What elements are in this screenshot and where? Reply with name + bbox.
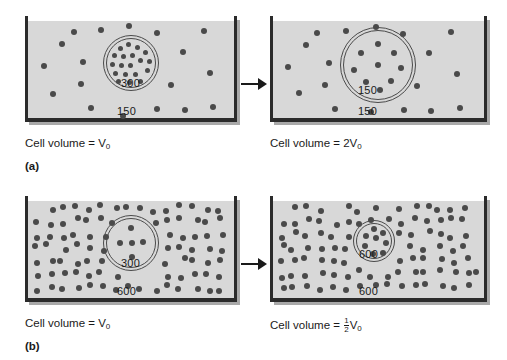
solute-particle <box>59 41 65 47</box>
beaker-shadow <box>274 122 490 125</box>
solute-particle <box>165 245 171 251</box>
solute-particle <box>346 219 352 225</box>
beaker-shadow-right <box>487 200 490 305</box>
solute-particle <box>426 50 432 56</box>
solute-particle <box>301 255 307 261</box>
solute-particle <box>457 105 463 111</box>
solute-particle <box>87 234 93 240</box>
solute-particle <box>385 274 391 280</box>
solute-particle <box>153 220 159 226</box>
solute-particle <box>407 243 413 249</box>
solute-particle <box>75 261 81 267</box>
solute-particle <box>217 215 223 221</box>
solute-particle <box>420 269 426 275</box>
solute-particle <box>137 205 143 211</box>
solute-particle <box>345 274 351 280</box>
solute-particle <box>216 288 222 294</box>
intracellular-particle <box>380 250 386 256</box>
beaker-shadow-right <box>237 20 240 125</box>
solute-particle <box>98 27 104 33</box>
solute-particle <box>447 207 453 213</box>
intracellular-particle <box>358 50 364 56</box>
solute-particle <box>195 217 201 223</box>
solute-particle <box>59 286 65 292</box>
intracellular-particle <box>130 53 135 58</box>
solute-particle <box>332 245 338 251</box>
solute-particle <box>48 222 54 228</box>
solute-particle <box>189 247 195 253</box>
caption-b-before: Cell volume = V0 <box>25 317 110 331</box>
transition-arrow-a <box>241 78 267 90</box>
beaker-a-after: 150 150 <box>270 16 487 122</box>
solute-particle <box>32 243 38 249</box>
solute-particle <box>35 273 41 279</box>
solute-particle <box>414 203 420 209</box>
solute-particle <box>342 246 348 252</box>
intracellular-particle <box>117 240 123 246</box>
solute-particle <box>96 269 102 275</box>
solute-particle <box>428 108 434 114</box>
intracellular-particle <box>138 58 143 63</box>
solute-particle <box>473 269 479 275</box>
solute-particle <box>49 271 55 277</box>
solute-particle <box>354 209 360 215</box>
caption-prefix: Cell volume = <box>25 137 98 149</box>
solute-particle <box>98 215 104 221</box>
solute-particle <box>76 285 82 291</box>
beaker-b-before: 300 600 <box>25 196 237 302</box>
solute-particle <box>346 203 352 209</box>
solute-particle <box>154 288 160 294</box>
solute-particle <box>303 203 309 209</box>
solute-particle <box>424 218 430 224</box>
solute-particle <box>71 29 77 35</box>
solute-particle <box>205 207 211 213</box>
solute-particle <box>33 219 39 225</box>
intracellular-particle <box>112 53 117 58</box>
solute-particle <box>317 287 323 293</box>
solute-particle <box>306 216 312 222</box>
solute-particle <box>207 288 213 294</box>
solute-particle <box>34 235 40 241</box>
caption-subscript: 0 <box>357 142 361 151</box>
intracellular-particle <box>118 46 123 51</box>
solute-particle <box>70 232 76 238</box>
solute-particle <box>408 232 414 238</box>
solute-particle <box>281 242 287 248</box>
solute-particle <box>288 273 294 279</box>
solute-particle <box>289 284 295 290</box>
solute-particle <box>328 234 334 240</box>
solute-particle <box>410 255 416 261</box>
intracellular-particle <box>377 87 383 93</box>
solute-particle <box>466 282 472 288</box>
intracellular-particle <box>380 230 386 236</box>
solute-particle <box>163 208 169 214</box>
solute-particle <box>356 267 362 273</box>
solute-particle <box>220 232 226 238</box>
beaker-wall-left <box>25 196 28 302</box>
solute-particle <box>319 257 325 263</box>
solute-particle <box>302 273 308 279</box>
solute-particle <box>204 233 210 239</box>
solute-particle <box>80 59 86 65</box>
solute-particle <box>319 246 325 252</box>
solute-particle <box>451 260 457 266</box>
solute-particle <box>401 107 407 113</box>
solute-particle <box>165 274 171 280</box>
solute-particle <box>57 258 63 264</box>
solute-particle <box>386 216 392 222</box>
solute-particle <box>413 269 419 275</box>
arrow-head <box>258 78 267 90</box>
solute-particle <box>438 217 444 223</box>
solute-particle <box>189 257 195 263</box>
solute-particle <box>47 234 53 240</box>
intracellular-concentration-label: 300 <box>121 257 140 269</box>
caption-fraction: 12 <box>344 317 348 335</box>
solute-particle <box>189 203 195 209</box>
solute-particle <box>176 244 182 250</box>
solute-particle <box>293 229 299 235</box>
solute-particle <box>451 285 457 291</box>
solute-particle <box>447 235 453 241</box>
solute-particle <box>182 255 188 261</box>
solute-particle <box>303 42 309 48</box>
solute-particle <box>314 30 320 36</box>
